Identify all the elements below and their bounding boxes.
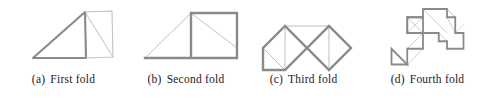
drawing-second-fold: [127, 0, 245, 72]
panel-fourth-fold: (d)Fourth fold: [362, 0, 493, 86]
first-fold-svg: [0, 1, 127, 71]
caption-label-a: First fold: [50, 73, 95, 85]
outline-lines-c: [263, 26, 351, 70]
caption-label-d: Fourth fold: [410, 73, 465, 85]
caption-tag-b: (b): [148, 73, 162, 85]
caption-third-fold: (c)Third fold: [270, 74, 338, 86]
crease-lines-c: [263, 26, 329, 70]
figure-panel-row: (a)First fold (b)Second fold: [0, 0, 493, 105]
drawing-first-fold: [0, 0, 127, 72]
caption-second-fold: (b)Second fold: [148, 74, 225, 86]
caption-fourth-fold: (d)Fourth fold: [391, 74, 465, 86]
caption-label-b: Second fold: [167, 73, 225, 85]
outline-lines-b: [145, 13, 237, 58]
panel-third-fold: (c)Third fold: [245, 0, 362, 86]
caption-first-fold: (a)First fold: [32, 74, 95, 86]
outline-lines-d: [392, 9, 464, 65]
drawing-third-fold: [245, 0, 362, 72]
fourth-fold-svg: [362, 0, 493, 72]
caption-label-c: Third fold: [288, 73, 337, 85]
caption-tag-a: (a): [32, 73, 45, 85]
drawing-fourth-fold: [362, 0, 493, 72]
caption-tag-d: (d): [391, 73, 405, 85]
outline-lines-a: [33, 12, 86, 58]
panel-second-fold: (b)Second fold: [127, 0, 245, 86]
panel-first-fold: (a)First fold: [0, 0, 127, 86]
caption-tag-c: (c): [270, 73, 283, 85]
third-fold-svg: [245, 0, 362, 72]
second-fold-svg: [127, 1, 245, 71]
crease-lines-a: [85, 12, 113, 58]
